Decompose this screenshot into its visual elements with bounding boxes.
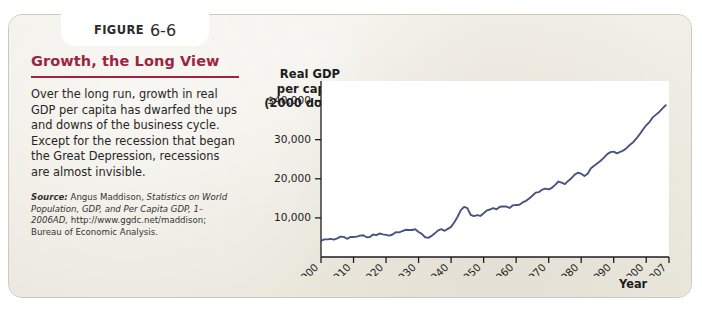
y-tick-label: 10,000 [274, 211, 311, 223]
x-tick-label: 1930 [391, 261, 418, 276]
figure-tab-word: FIGURE [94, 23, 144, 37]
x-axis-title: Year [619, 277, 647, 291]
y-tick-label: 20,000 [274, 172, 311, 184]
x-tick-label: 2007 [641, 261, 668, 276]
x-tick-label: 1980 [553, 261, 580, 276]
chart-container: Real GDP per capita (2000 dollars) 10,00… [247, 61, 685, 291]
x-tick-label: 1940 [423, 261, 450, 276]
figure-caption: Over the long run, growth in real GDP pe… [31, 87, 239, 181]
figure-source: Source: Angus Maddison, Statistics on Wo… [31, 192, 237, 238]
title-divider [31, 76, 239, 78]
source-author: Angus Maddison, [68, 192, 147, 202]
gdp-line-chart: 10,00020,00030,000$40,000 19001910192019… [247, 61, 685, 276]
x-tick-label: 2000 [618, 261, 645, 276]
plot-background [321, 81, 669, 257]
figure-tab: FIGURE 6-6 [61, 14, 209, 46]
y-tick-label: $40,000 [267, 94, 311, 106]
x-axis-ticks: 1900191019201930194019501960197019801990… [293, 257, 669, 276]
y-tick-label: 30,000 [274, 133, 311, 145]
figure-title: Growth, the Long View [31, 53, 243, 69]
x-tick-label: 1900 [293, 261, 320, 276]
figure-text-column: Growth, the Long View Over the long run,… [31, 53, 243, 247]
figure-panel: FIGURE 6-6 Growth, the Long View Over th… [8, 14, 692, 298]
y-axis-ticks: 10,00020,00030,000$40,000 [267, 94, 321, 223]
x-tick-label: 1950 [456, 261, 483, 276]
x-tick-label: 1990 [586, 261, 613, 276]
figure-tab-number: 6-6 [150, 21, 176, 40]
x-tick-label: 1920 [358, 261, 385, 276]
x-tick-label: 1960 [488, 261, 515, 276]
x-tick-label: 1970 [521, 261, 548, 276]
x-tick-label: 1910 [326, 261, 353, 276]
source-label: Source: [31, 192, 68, 202]
